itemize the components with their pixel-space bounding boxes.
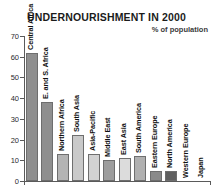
bar-category-label: South Asia [72, 96, 81, 133]
bar [150, 171, 162, 181]
y-tick-label: 10 [11, 156, 19, 165]
bar [57, 154, 69, 181]
y-tick-label: 0 [15, 177, 19, 186]
bar [165, 171, 177, 181]
bar [41, 102, 53, 181]
bar [119, 158, 131, 181]
x-axis-right-cap [210, 181, 211, 185]
bar [26, 53, 38, 181]
bar-category-label: Japan [196, 157, 205, 178]
y-tick-label: 40 [11, 94, 19, 103]
x-axis-left-cap [24, 181, 25, 185]
bar-category-label: E. and S. Africa [41, 48, 50, 100]
bar [88, 154, 100, 181]
bar-category-label: Middle East [103, 118, 112, 157]
bar-category-label: Central Africa [26, 3, 35, 49]
y-tick [20, 181, 24, 182]
y-tick-label: 60 [11, 52, 19, 61]
bar-series: Central AfricaE. and S. AfricaNorthern A… [24, 36, 210, 181]
bar-category-label: Eastern Europe [150, 115, 159, 168]
bar-category-label: South America [134, 103, 143, 153]
chart-container: UNDERNOURISHMENT IN 2000 % of population… [0, 0, 218, 193]
plot-area: 010203040506070 Central AfricaE. and S. … [24, 36, 210, 181]
bar [72, 135, 84, 181]
bar-category-label: Western Europe [181, 124, 190, 178]
y-tick-label: 30 [11, 114, 19, 123]
bar [103, 160, 115, 181]
y-tick-label: 50 [11, 73, 19, 82]
bar-category-label: East Asia [119, 124, 128, 156]
bar-category-label: North America [165, 119, 174, 168]
bar [134, 156, 146, 181]
y-tick-label: 20 [11, 135, 19, 144]
bar-category-label: Northern Africa [57, 99, 66, 151]
y-tick-label: 70 [11, 32, 19, 41]
x-axis-line [24, 181, 211, 182]
bar-category-label: Asia-Pacific [88, 111, 97, 151]
